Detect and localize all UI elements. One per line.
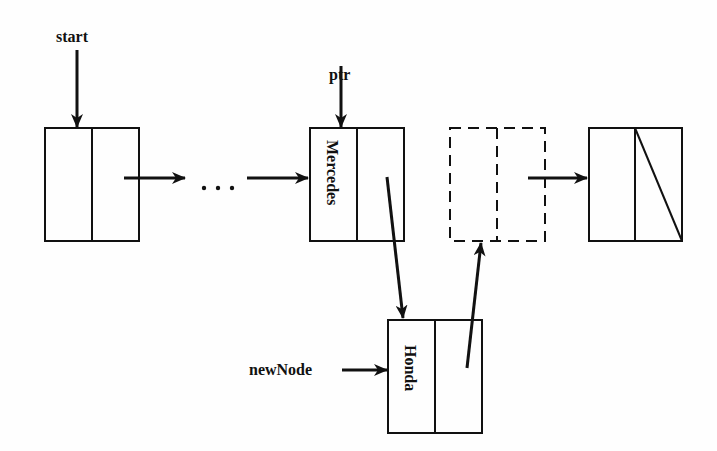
node-old-next-dashed [450,128,545,241]
node-mercedes: Mercedes [310,128,404,241]
start-pointer-label: start [56,28,89,45]
node-honda: Honda [388,320,482,433]
null-pointer-slash [635,128,682,241]
honda-next-arrow [467,243,481,368]
ellipsis [202,186,234,190]
node-head [45,128,139,241]
honda-data-label: Honda [402,345,419,391]
linked-list-diagram: start ptr Mercedes [0,0,717,451]
newnode-pointer-label: newNode [249,361,312,378]
mercedes-next-arrow [387,177,403,318]
mercedes-data-label: Mercedes [324,140,341,205]
diagram-svg: start ptr Mercedes [0,0,717,451]
node-tail [589,128,682,241]
